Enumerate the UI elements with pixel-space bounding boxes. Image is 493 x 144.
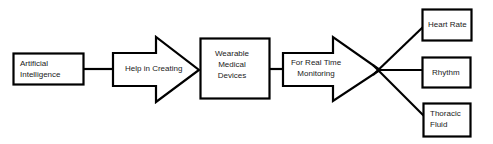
node-wearable-label-line2: Medical [208,59,256,70]
node-heart-rate-label: Heart Rate [428,19,467,30]
node-ai-label: Artificial Intelligence [20,58,60,80]
node-ai-label-line2: Intelligence [20,69,60,80]
node-monitoring-label: For Real Time Monitoring [285,57,347,79]
branch-heart-rate [373,27,423,75]
node-thoracic-label-line2: Fluid [430,119,461,130]
node-rhythm-label: Rhythm [432,67,460,78]
node-thoracic-label-line1: Thoracic [430,108,461,119]
node-wearable-label: Wearable Medical Devices [208,48,256,81]
node-wearable-label-line3: Devices [208,70,256,81]
node-thoracic-label: Thoracic Fluid [430,108,461,130]
node-wearable-label-line1: Wearable [208,48,256,59]
branch-thoracic [373,65,424,116]
node-help-label: Help in Creating [125,63,182,74]
node-monitoring-label-line1: For Real Time [285,57,347,68]
node-monitoring-label-line2: Monitoring [285,68,347,79]
node-ai-label-line1: Artificial [20,58,60,69]
